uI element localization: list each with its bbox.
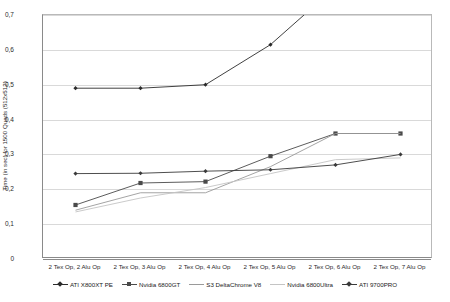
series-s3-deltachrome-v8: [76, 134, 401, 211]
data-point: [203, 83, 207, 87]
series-nvidia-6800gt: [73, 131, 402, 207]
legend-label: Nvidia 6800Ultra: [287, 281, 333, 288]
x-tick-label: 2 Tex Op, 4 Alu Op: [179, 263, 231, 270]
legend-item[interactable]: ATI X800XT PE: [53, 281, 113, 288]
data-point: [333, 163, 337, 167]
y-tick-label: 0,4: [0, 115, 14, 122]
y-tick-label: 0,5: [0, 80, 14, 87]
gridline-0: [43, 259, 431, 260]
data-point: [398, 152, 402, 156]
line-chart: Time (in sec) for 1500 Quads (512x512) 0…: [0, 0, 450, 302]
legend-marker-icon: [270, 281, 285, 288]
chart-legend: ATI X800XT PENvidia 6800GTS3 DeltaChrome…: [0, 281, 450, 288]
series-ati-x800xt-pe: [73, 0, 400, 90]
series-line: [76, 134, 401, 211]
legend-label: ATI 9700PRO: [359, 281, 397, 288]
series-line: [76, 154, 401, 173]
y-tick-label: 0: [0, 255, 14, 262]
x-tick-label: 2 Tex Op, 5 Alu Op: [244, 263, 296, 270]
legend-item[interactable]: Nvidia 6800GT: [122, 281, 180, 288]
y-tick-label: 0,7: [0, 11, 14, 18]
x-tick-label: 2 Tex Op, 7 Alu Op: [374, 263, 426, 270]
legend-item[interactable]: S3 DeltaChrome V8: [189, 281, 261, 288]
y-tick-label: 0,2: [0, 185, 14, 192]
data-point: [138, 171, 142, 175]
legend-marker-icon: [122, 281, 137, 288]
series-line: [76, 158, 401, 212]
series-line: [76, 134, 401, 205]
legend-item[interactable]: ATI 9700PRO: [342, 281, 397, 288]
series-nvidia-6800ultra: [76, 158, 401, 212]
data-point: [73, 86, 77, 90]
legend-label: S3 DeltaChrome V8: [206, 281, 261, 288]
legend-marker-icon: [189, 281, 204, 288]
x-tick-label: 2 Tex Op, 2 Alu Op: [49, 263, 101, 270]
data-point: [268, 168, 272, 172]
data-point: [73, 203, 77, 207]
legend-marker-icon: [53, 281, 68, 288]
series-line: [76, 0, 401, 88]
series-ati-9700pro: [73, 152, 402, 175]
y-tick-label: 0,3: [0, 150, 14, 157]
y-tick-label: 0,6: [0, 45, 14, 52]
data-point: [138, 86, 142, 90]
series-layer: [43, 15, 433, 259]
data-point: [203, 180, 207, 184]
legend-label: Nvidia 6800GT: [139, 281, 180, 288]
data-point: [73, 172, 77, 176]
x-tick-label: 2 Tex Op, 3 Alu Op: [114, 263, 166, 270]
data-point: [203, 169, 207, 173]
data-point: [138, 181, 142, 185]
x-tick-label: 2 Tex Op, 6 Alu Op: [309, 263, 361, 270]
plot-area: [42, 14, 432, 258]
legend-label: ATI X800XT PE: [70, 281, 113, 288]
y-tick-label: 0,1: [0, 220, 14, 227]
data-point: [268, 154, 272, 158]
legend-item[interactable]: Nvidia 6800Ultra: [270, 281, 333, 288]
legend-marker-icon: [342, 281, 357, 288]
